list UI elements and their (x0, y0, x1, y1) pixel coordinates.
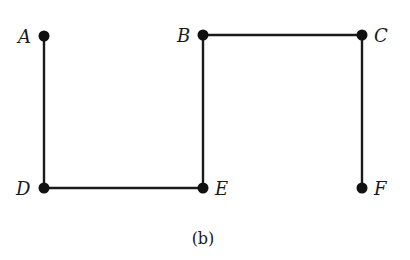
label-e: E (214, 178, 228, 199)
node-b (198, 30, 209, 41)
node-d (39, 183, 50, 194)
edges (44, 35, 362, 188)
node-labels: A B C D E F (15, 25, 388, 199)
node-e (198, 183, 209, 194)
graph-diagram: A B C D E F (b) (0, 0, 410, 260)
label-a: A (16, 26, 31, 47)
label-c: C (374, 25, 388, 46)
node-a (39, 31, 50, 42)
label-f: F (373, 178, 388, 199)
node-f (357, 183, 368, 194)
node-c (357, 30, 368, 41)
label-d: D (15, 178, 31, 199)
figure-caption: (b) (192, 229, 215, 248)
label-b: B (176, 25, 190, 46)
